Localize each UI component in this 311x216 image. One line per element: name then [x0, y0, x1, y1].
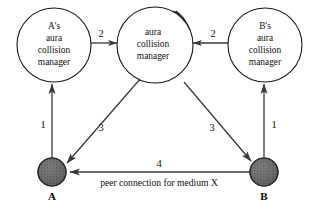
host-a-group[interactable]: A [38, 158, 66, 202]
center-manager-line-2: collision [137, 39, 170, 49]
right-manager-line-2: aura [257, 33, 274, 43]
right-manager-line-4: manager [249, 57, 282, 67]
edge-label-2-right: 2 [210, 28, 215, 39]
host-a-label: A [48, 190, 56, 202]
edge-center-to-host-b [184, 82, 251, 161]
left-manager-line-2: aura [46, 33, 63, 43]
right-manager-line-3: collision [249, 45, 282, 55]
center-manager-line-1: aura [145, 27, 162, 37]
edge-center-to-host-a [67, 78, 141, 163]
host-b-group[interactable]: B [250, 158, 278, 202]
peer-connection-caption: peer connection for medium X [100, 177, 218, 188]
left-manager-line-4: manager [38, 57, 71, 67]
diagram-canvas: A's aura collision manager aura collisio… [0, 0, 311, 216]
left-manager-line-1: A's [48, 21, 60, 31]
edge-label-2-left: 2 [98, 28, 103, 39]
left-manager-line-3: collision [38, 45, 71, 55]
diagram-container: A's aura collision manager aura collisio… [0, 0, 311, 216]
center-manager-line-3: manager [137, 51, 170, 61]
right-manager-line-1: B's [259, 21, 271, 31]
edge-label-3-right: 3 [209, 122, 214, 133]
edge-label-1-right: 1 [271, 119, 276, 130]
edge-label-3-left: 3 [98, 122, 103, 133]
host-b-label: B [260, 190, 268, 202]
edge-label-4-peer: 4 [156, 158, 162, 169]
edge-label-1-left: 1 [40, 119, 45, 130]
